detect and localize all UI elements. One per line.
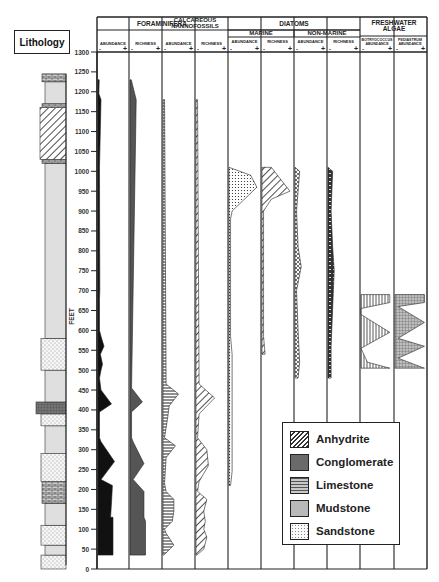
- lithology-interval: [45, 82, 66, 104]
- tick-label: 500: [78, 367, 89, 374]
- lithology-interval: [41, 454, 66, 482]
- tick-label: 1250: [75, 68, 90, 75]
- tick-label: 1100: [75, 128, 89, 135]
- series-area: [262, 167, 290, 354]
- column-headers: FORAMINIFERACALCAREOUSNANNOFOSSILSDIATOM…: [97, 17, 427, 52]
- axis-label-feet: FEET: [68, 308, 75, 325]
- tick-label: 750: [78, 267, 89, 274]
- scale-low-marker: -: [296, 46, 298, 52]
- column-header: ABUNDANCE: [398, 42, 422, 46]
- group-header-algae: ALGAE: [383, 25, 406, 32]
- scale-high-marker: +: [288, 45, 292, 52]
- scale-high-marker: +: [255, 45, 259, 52]
- legend-item-conglomerate: Conglomerate: [290, 452, 393, 472]
- scale-low-marker: -: [362, 46, 364, 52]
- tick-label: 1200: [75, 88, 90, 95]
- series-area: [229, 167, 257, 485]
- lithology-interval: [42, 159, 66, 163]
- column-header: ABUNDANCE: [166, 41, 192, 46]
- series-area: [295, 167, 301, 378]
- tick-label: 50: [82, 546, 90, 553]
- lithology-interval: [42, 104, 66, 108]
- lithology-interval: [41, 555, 66, 569]
- tick-label: 400: [78, 406, 89, 413]
- lithology-interval: [45, 370, 66, 402]
- sandstone-swatch-icon: [290, 523, 309, 540]
- scale-high-marker: +: [156, 45, 160, 52]
- column-header: ABUNDANCE: [232, 39, 258, 44]
- scale-high-marker: +: [354, 45, 358, 52]
- lithology-interval: [45, 426, 66, 454]
- column-header: RICHNESS: [333, 39, 354, 44]
- depth-axis: 0501001502002503003504004505005506006507…: [68, 49, 97, 573]
- lithology-title: Lithology: [14, 30, 70, 54]
- tick-label: 650: [78, 307, 89, 314]
- legend: Anhydrite Conglomerate Limestone Mudston…: [282, 422, 400, 545]
- limestone-swatch-icon: [290, 477, 309, 494]
- series-area: [130, 80, 146, 555]
- group-header-nannofossils: NANNOFOSSILS: [171, 23, 219, 29]
- mudstone-swatch-icon: [290, 500, 309, 517]
- scale-low-marker: -: [131, 46, 133, 52]
- scale-high-marker: +: [421, 45, 425, 52]
- tick-label: 900: [78, 208, 89, 215]
- tick-label: 950: [78, 188, 89, 195]
- scale-low-marker: -: [99, 46, 101, 52]
- group-header-diatoms: DIATOMS: [279, 20, 309, 27]
- series-area: [328, 167, 334, 378]
- lithology-interval: [45, 545, 66, 555]
- column-header: ABUNDANCE: [298, 39, 324, 44]
- series-area: [163, 100, 179, 555]
- lithology-interval: [41, 414, 66, 426]
- legend-item-anhydrite: Anhydrite: [290, 429, 370, 449]
- tick-label: 0: [85, 566, 89, 573]
- tick-label: 1300: [75, 49, 90, 56]
- conglomerate-swatch-icon: [290, 454, 309, 471]
- tick-label: 700: [78, 287, 89, 294]
- tick-label: 150: [78, 506, 89, 513]
- tick-label: 800: [78, 247, 89, 254]
- tick-label: 600: [78, 327, 89, 334]
- tick-label: 1150: [75, 108, 89, 115]
- tick-label: 300: [78, 446, 89, 453]
- tick-label: 100: [78, 526, 89, 533]
- tick-label: 450: [78, 387, 89, 394]
- scale-high-marker: +: [123, 45, 127, 52]
- series-area: [196, 100, 215, 555]
- legend-item-sandstone: Sandstone: [290, 521, 375, 541]
- lithology-interval: [42, 482, 66, 504]
- scale-high-marker: +: [222, 45, 226, 52]
- tick-label: 1050: [75, 148, 90, 155]
- scale-low-marker: -: [164, 46, 166, 52]
- tick-label: 550: [78, 347, 89, 354]
- scale-high-marker: +: [388, 45, 392, 52]
- anhydrite-swatch-icon: [290, 431, 309, 448]
- subgroup-header-marine: MARINE: [249, 30, 273, 36]
- scale-low-marker: -: [329, 46, 331, 52]
- series-area: [361, 295, 390, 369]
- biostratigraphy-chart: 0501001502002503003504004505005506006507…: [0, 0, 439, 582]
- legend-item-mudstone: Mudstone: [290, 498, 370, 518]
- column-header: ABUNDANCE: [365, 42, 389, 46]
- tick-label: 200: [78, 486, 89, 493]
- subgroup-header-non-marine: NON-MARINE: [308, 30, 347, 36]
- series-area: [395, 295, 424, 369]
- tick-label: 250: [78, 466, 89, 473]
- column-header: RICHNESS: [267, 39, 288, 44]
- scale-low-marker: -: [263, 46, 265, 52]
- column-header: RICHNESS: [201, 41, 222, 46]
- legend-item-limestone: Limestone: [290, 475, 374, 495]
- lithology-interval: [41, 525, 66, 545]
- column-header: RICHNESS: [135, 41, 156, 46]
- scale-high-marker: +: [321, 45, 325, 52]
- scale-low-marker: -: [230, 46, 232, 52]
- scale-high-marker: +: [189, 45, 193, 52]
- tick-label: 1000: [75, 168, 90, 175]
- lithology-interval: [36, 402, 66, 414]
- lithology-interval: [41, 338, 66, 370]
- lithology-interval: [45, 503, 66, 525]
- lithology-interval: [42, 74, 66, 82]
- scale-low-marker: -: [197, 46, 199, 52]
- lithology-interval: [45, 163, 66, 338]
- lithology-column: [36, 74, 66, 569]
